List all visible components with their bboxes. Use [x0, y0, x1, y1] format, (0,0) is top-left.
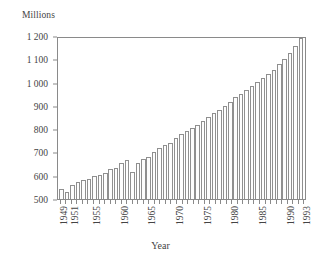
x-tick-mark	[187, 200, 188, 204]
x-tick-mark	[198, 200, 199, 204]
bar	[277, 64, 282, 199]
y-axis-units-label: Millions	[22, 10, 55, 20]
x-tick-label: 1955	[92, 206, 102, 225]
y-tick-label: 800	[0, 125, 57, 135]
x-tick-mark	[65, 200, 66, 204]
x-tick-mark	[76, 200, 77, 204]
x-tick-mark	[276, 200, 277, 204]
x-tick-mark	[204, 200, 205, 204]
bar-series	[58, 38, 305, 199]
x-tick-mark	[231, 200, 232, 204]
bar	[87, 179, 92, 199]
x-axis-title: Year	[0, 240, 321, 251]
x-tick-mark	[287, 200, 288, 204]
bar	[201, 121, 206, 199]
bar	[157, 148, 162, 199]
bar	[152, 152, 157, 199]
bar	[81, 180, 86, 199]
x-tick-label: 1970	[175, 206, 185, 225]
bar	[282, 59, 287, 199]
bar	[190, 128, 195, 199]
x-tick-mark	[110, 200, 111, 204]
y-tick-label: 500	[0, 195, 57, 205]
bar	[250, 86, 255, 199]
bar	[92, 176, 97, 199]
x-tick-mark	[226, 200, 227, 204]
bar	[179, 134, 184, 199]
x-tick-mark	[104, 200, 105, 204]
bar-chart-figure: Millions 5006007008009001 0001 1001 200 …	[0, 0, 321, 263]
x-tick-mark	[115, 200, 116, 204]
x-tick-mark	[193, 200, 194, 204]
x-tick-label: 1960	[120, 206, 130, 225]
x-tick-label: 1980	[230, 206, 240, 225]
bar	[103, 173, 108, 199]
bar	[233, 97, 238, 199]
x-tick-mark	[159, 200, 160, 204]
x-tick-label: 1975	[203, 206, 213, 225]
bar	[76, 182, 81, 199]
bar	[125, 160, 130, 199]
x-tick-mark	[165, 200, 166, 204]
bar	[293, 46, 298, 199]
bar	[59, 189, 64, 199]
x-tick-mark	[292, 200, 293, 204]
bar	[212, 113, 217, 199]
bar	[141, 159, 146, 199]
bar	[163, 145, 168, 199]
x-tick-mark	[148, 200, 149, 204]
bar	[228, 102, 233, 199]
x-tick-label: 1993	[302, 206, 312, 225]
x-tick-mark	[71, 200, 72, 204]
x-tick-label: 1990	[286, 206, 296, 225]
bar	[217, 110, 222, 199]
x-tick-mark	[82, 200, 83, 204]
x-tick-label: 1949	[59, 206, 69, 225]
x-tick-mark	[242, 200, 243, 204]
bar	[146, 157, 151, 199]
x-tick-mark	[154, 200, 155, 204]
x-tick-label: 1951	[70, 206, 80, 225]
bar	[98, 175, 103, 199]
plot-area	[57, 37, 306, 200]
x-tick-mark	[303, 200, 304, 204]
bar	[130, 172, 135, 199]
bar	[174, 138, 179, 199]
bar	[195, 125, 200, 200]
x-tick-mark	[270, 200, 271, 204]
bar	[266, 74, 271, 199]
x-tick-mark	[121, 200, 122, 204]
y-tick-label: 600	[0, 172, 57, 182]
x-tick-label: 1965	[147, 206, 157, 225]
bar	[185, 131, 190, 199]
bar	[261, 78, 266, 199]
bar	[239, 94, 244, 199]
x-tick-mark	[143, 200, 144, 204]
bar	[65, 192, 70, 199]
x-tick-mark	[182, 200, 183, 204]
bar	[299, 38, 304, 199]
bar	[255, 82, 260, 199]
x-tick-mark	[209, 200, 210, 204]
bar	[114, 168, 119, 199]
bar	[272, 70, 277, 199]
x-tick-label: 1985	[258, 206, 268, 225]
y-tick-label: 1 200	[0, 32, 57, 42]
x-tick-mark	[99, 200, 100, 204]
x-tick-mark	[137, 200, 138, 204]
x-tick-mark	[60, 200, 61, 204]
x-tick-mark	[298, 200, 299, 204]
y-tick-label: 1 100	[0, 55, 57, 65]
x-tick-mark	[265, 200, 266, 204]
x-tick-mark	[259, 200, 260, 204]
bar	[70, 185, 75, 199]
bar	[168, 143, 173, 199]
x-tick-mark	[87, 200, 88, 204]
x-tick-mark	[248, 200, 249, 204]
x-tick-mark	[253, 200, 254, 204]
bar	[244, 90, 249, 199]
bar	[223, 106, 228, 199]
x-tick-mark	[93, 200, 94, 204]
bar	[206, 117, 211, 199]
x-tick-mark	[170, 200, 171, 204]
